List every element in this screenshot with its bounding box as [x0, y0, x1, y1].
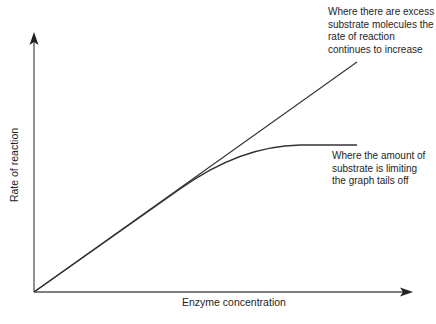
- annotation-excess-substrate: Where there are excess substrate molecul…: [328, 6, 436, 56]
- y-axis-label: Rate of reaction: [8, 128, 20, 202]
- limiting-substrate-curve: [34, 145, 357, 292]
- annotation-limiting-substrate: Where the amount of substrate is limitin…: [332, 150, 436, 188]
- x-axis-label: Enzyme concentration: [182, 296, 286, 308]
